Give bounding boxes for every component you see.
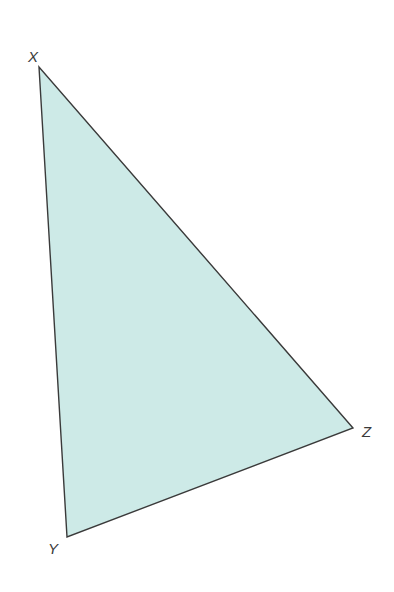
triangle-xyz xyxy=(39,67,353,537)
vertex-label-x: X xyxy=(27,48,39,65)
triangle-diagram: X Y Z xyxy=(0,0,394,592)
vertex-label-y: Y xyxy=(48,540,59,557)
vertex-label-z: Z xyxy=(361,423,372,440)
